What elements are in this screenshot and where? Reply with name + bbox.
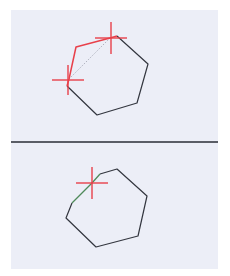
top-heptagon: [67, 36, 148, 115]
result-edge-path: [72, 174, 100, 203]
diagram-canvas: [0, 0, 230, 276]
heptagon-outline: [66, 169, 147, 247]
crosshair-cursor-icon: [52, 65, 84, 95]
crosshair-cursor-icon: [95, 22, 127, 54]
edited-edge-path: [67, 36, 117, 86]
top-crosshairs: [52, 22, 127, 95]
heptagon-outline: [67, 36, 148, 115]
bottom-heptagon: [66, 169, 147, 247]
